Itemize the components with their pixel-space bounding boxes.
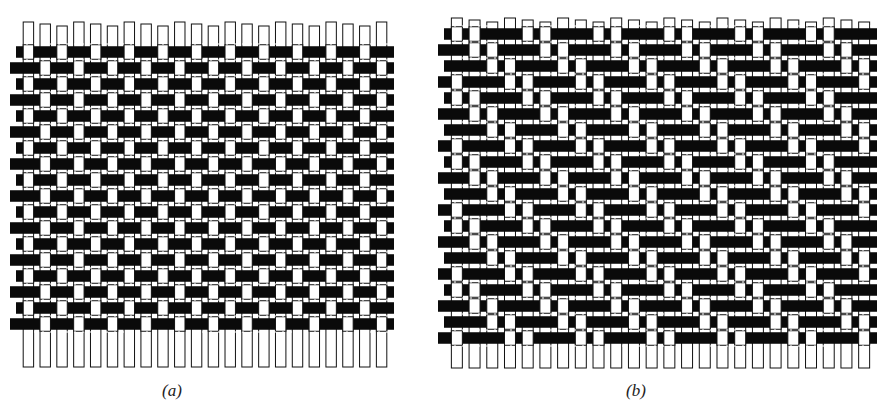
warp-float [575,251,586,266]
warp-float [522,75,533,90]
warp-float [646,187,657,202]
warp-float [628,59,639,74]
warp-float [504,75,515,90]
warp-float [469,219,480,234]
warp-float [752,299,763,314]
warp-float [752,155,763,170]
warp-float [859,331,870,346]
warp-float [628,171,639,186]
warp-float [841,315,852,330]
warp-float [717,139,728,154]
warp-float [823,219,834,234]
warp-float [841,107,852,122]
warp-float [859,267,870,282]
weft-thread [438,300,877,312]
warp-float [735,91,746,106]
warp-float [593,139,604,154]
warp-float [469,299,480,314]
warp-float [788,267,799,282]
warp-float [664,283,675,298]
warp-float [841,171,852,186]
warp-float [699,315,710,330]
warp-float [593,283,604,298]
warp-float [469,283,480,298]
warp-float [806,27,817,42]
warp-float [611,91,622,106]
warp-float [664,91,675,106]
warp-float [770,43,781,58]
warp-float [487,187,498,202]
warp-float [841,299,852,314]
warp-float [752,43,763,58]
warp-float [788,331,799,346]
warp-float [451,203,462,218]
warp-float [540,283,551,298]
warp-float [540,43,551,58]
warp-float [504,139,515,154]
warp-float [682,219,693,234]
warp-float [664,75,675,90]
warp-float [522,283,533,298]
warp-float [646,331,657,346]
warp-float [611,43,622,58]
warp-float [699,171,710,186]
warp-float [735,27,746,42]
warp-float [735,139,746,154]
warp-float [664,27,675,42]
warp-float [504,331,515,346]
warp-float [451,91,462,106]
warp-float [522,91,533,106]
warp-float [682,155,693,170]
warp-float [558,171,569,186]
warp-float [859,59,870,74]
weft-thread [438,172,877,184]
warp-float [770,187,781,202]
warp-float [788,59,799,74]
warp-float [487,123,498,138]
warp-float [558,315,569,330]
warp-float [504,267,515,282]
warp-float [593,75,604,90]
warp-float [859,203,870,218]
warp-float [859,187,870,202]
warp-float [611,27,622,42]
warp-float [522,331,533,346]
warp-float [540,107,551,122]
warp-float [735,331,746,346]
warp-float [558,123,569,138]
warp-float [717,75,728,90]
warp-float [628,43,639,58]
warp-float [859,251,870,266]
warp-float [628,235,639,250]
warp-float [859,315,870,330]
warp-float [699,235,710,250]
warp-float [487,315,498,330]
warp-float [823,27,834,42]
warp-float [487,43,498,58]
warp-float [451,267,462,282]
warp-float [717,251,728,266]
warp-float [664,139,675,154]
warp-float [735,75,746,90]
weft-thread [438,236,877,248]
warp-float [806,91,817,106]
warp-float [593,267,604,282]
weft-thread [438,44,877,56]
warp-float [487,251,498,266]
warp-float [752,107,763,122]
warp-float [504,251,515,266]
warp-float [628,251,639,266]
caption-b: (b) [606,381,666,401]
warp-float [487,59,498,74]
warp-float [522,27,533,42]
warp-float [522,203,533,218]
warp-float [682,27,693,42]
warp-float [823,91,834,106]
warp-float [469,235,480,250]
warp-float [540,27,551,42]
warp-float [770,107,781,122]
warp-float [859,139,870,154]
warp-float [558,299,569,314]
warp-float [841,43,852,58]
warp-float [823,155,834,170]
